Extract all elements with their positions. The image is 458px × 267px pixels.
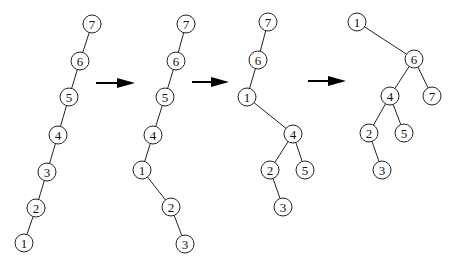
tree-edge <box>27 217 33 235</box>
tree-node: 6 <box>249 51 267 69</box>
transform-arrow-icon <box>308 76 346 86</box>
tree-node: 5 <box>156 88 174 106</box>
tree-edge <box>83 33 89 53</box>
node-label: 4 <box>150 128 157 143</box>
tree-edge <box>373 104 385 125</box>
tree-node: 1 <box>15 234 33 252</box>
node-label: 5 <box>302 163 309 178</box>
tree-edge <box>254 103 286 129</box>
tree-node: 3 <box>373 161 391 179</box>
tree-1: 7654321 <box>15 15 101 252</box>
tree-node: 2 <box>162 198 180 216</box>
tree-node: 2 <box>27 199 45 217</box>
splay-tree-diagram: 7654321765412376142531647253 <box>0 0 458 267</box>
node-label: 1 <box>139 163 146 178</box>
tree-4: 1647253 <box>348 13 441 179</box>
node-label: 5 <box>162 90 169 105</box>
tree-node: 1 <box>133 161 151 179</box>
tree-edge <box>156 106 163 127</box>
node-label: 7 <box>89 17 96 32</box>
node-label: 2 <box>33 201 40 216</box>
tree-edge <box>395 67 409 89</box>
tree-nodes: 7654321765412376142531647253 <box>15 13 441 253</box>
tree-edge <box>275 142 288 163</box>
tree-node: 6 <box>167 52 185 70</box>
node-label: 6 <box>173 54 180 69</box>
node-label: 2 <box>267 163 274 178</box>
tree-edge <box>174 215 182 235</box>
tree-node: 3 <box>176 235 194 253</box>
tree-edge <box>273 178 280 198</box>
tree-edge <box>178 33 183 53</box>
tree-edge <box>72 70 78 89</box>
arrows <box>96 76 346 88</box>
tree-edge <box>39 181 45 200</box>
node-label: 3 <box>280 200 287 215</box>
node-label: 5 <box>401 126 408 141</box>
tree-node: 6 <box>405 50 423 68</box>
tree-node: 4 <box>284 125 302 143</box>
tree-node: 5 <box>60 88 78 106</box>
tree-node: 7 <box>177 15 195 33</box>
tree-node: 5 <box>296 161 314 179</box>
tree-node: 2 <box>261 161 279 179</box>
node-label: 1 <box>244 90 251 105</box>
node-label: 2 <box>168 200 175 215</box>
tree-edge <box>168 70 174 89</box>
tree-edge <box>250 69 256 89</box>
tree-node: 5 <box>395 124 413 142</box>
tree-node: 4 <box>144 126 162 144</box>
tree-node: 7 <box>423 87 441 105</box>
node-label: 4 <box>387 89 394 104</box>
tree-node: 3 <box>274 198 292 216</box>
tree-node: 3 <box>38 163 56 181</box>
node-label: 1 <box>21 236 28 251</box>
node-label: 4 <box>55 128 62 143</box>
tree-node: 6 <box>71 52 89 70</box>
node-label: 5 <box>66 90 73 105</box>
node-label: 6 <box>255 53 262 68</box>
tree-node: 2 <box>360 124 378 142</box>
node-label: 7 <box>265 15 272 30</box>
node-label: 7 <box>429 89 436 104</box>
diagram-svg: 7654321765412376142531647253 <box>0 0 458 267</box>
tree-node: 1 <box>348 13 366 31</box>
node-label: 1 <box>354 15 361 30</box>
tree-2: 7654123 <box>133 15 195 253</box>
node-label: 4 <box>290 127 297 142</box>
transform-arrow-icon <box>192 77 229 87</box>
tree-edge <box>372 141 379 161</box>
tree-node: 1 <box>238 88 256 106</box>
tree-3: 7614253 <box>238 13 314 216</box>
tree-edge <box>148 177 166 200</box>
transform-arrow-icon <box>96 78 135 88</box>
node-label: 3 <box>379 163 386 178</box>
tree-edge <box>50 144 56 164</box>
tree-edge <box>393 104 401 124</box>
tree-edge <box>61 106 67 127</box>
tree-node: 7 <box>259 13 277 31</box>
node-label: 6 <box>411 52 418 67</box>
tree-edge <box>145 144 151 162</box>
node-label: 6 <box>77 54 84 69</box>
node-label: 7 <box>183 17 190 32</box>
tree-node: 7 <box>83 15 101 33</box>
tree-edge <box>260 31 265 52</box>
tree-node: 4 <box>381 87 399 105</box>
node-label: 3 <box>182 237 189 252</box>
tree-node: 4 <box>49 126 67 144</box>
tree-edge <box>418 67 428 88</box>
node-label: 3 <box>44 165 51 180</box>
tree-edge <box>365 27 407 54</box>
tree-edge <box>296 143 302 162</box>
node-label: 2 <box>366 126 373 141</box>
